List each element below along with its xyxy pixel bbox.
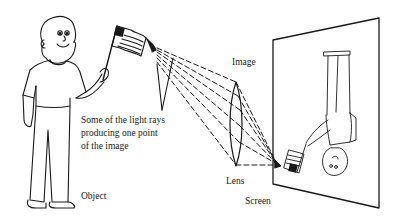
lens-label: Lens [226,175,244,188]
object-label: Object [81,190,106,203]
screen-label: Screen [245,195,271,208]
caption-line-1: Some of the light rays [81,114,165,127]
diagram-drawing [0,0,397,224]
rays-caption: Some of the light rays producing one poi… [81,114,165,153]
image-label: Image [232,56,256,69]
light-rays [157,48,277,165]
caption-line-2: producing one point [81,127,165,140]
flag-object [103,26,156,80]
lens-image-formation-diagram: Some of the light rays producing one poi… [0,0,397,224]
caption-line-3: of the image [81,140,165,153]
boy-object-figure [23,16,108,208]
screen [273,18,379,208]
inverted-image-figure [275,51,356,175]
